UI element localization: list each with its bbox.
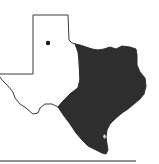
location-marker-dot xyxy=(46,41,50,45)
texas-range-map xyxy=(0,0,159,164)
